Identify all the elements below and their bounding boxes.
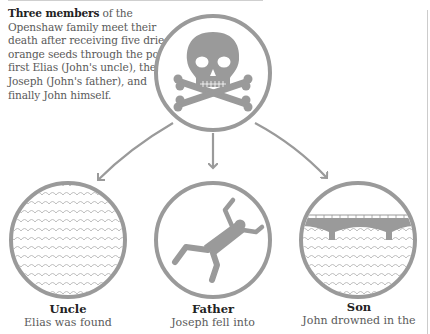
diagram-art [0,0,430,334]
caption-title: Father [138,302,288,316]
caption-desc: Joseph fell into [138,316,288,330]
skull-and-crossbones-icon [156,16,270,130]
falling-man-icon [156,183,270,297]
caption-title: Uncle [0,302,143,316]
arrow-to-uncle [98,123,173,180]
caption-desc: John drowned in the [284,314,430,328]
caption-uncle: Uncle Elias was found [0,302,143,330]
caption-desc: Elias was found [0,316,143,330]
bridge-over-water-icon [300,183,416,298]
caption-title: Son [284,300,430,314]
arrow-to-son [255,123,327,178]
caption-son: Son John drowned in the [284,300,430,328]
water-waves-icon [10,182,126,298]
caption-father: Father Joseph fell into [138,302,288,330]
